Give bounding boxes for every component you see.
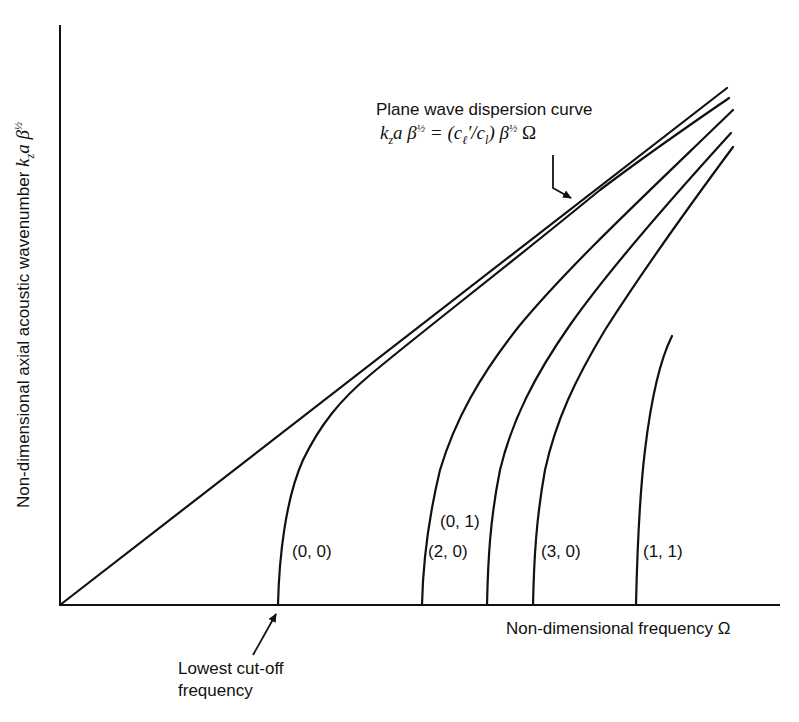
cutoff-label-line1: Lowest cut-off [178, 659, 284, 679]
mode-label-0-0: (0, 0) [292, 542, 332, 562]
mode-label-2-0: (2, 0) [428, 542, 468, 562]
mode-0-0-curve [278, 98, 729, 605]
plane-wave-title: Plane wave dispersion curve [376, 100, 592, 120]
y-axis-label-math: kza β½ [12, 122, 33, 167]
x-axis-label: Non-dimensional frequency Ω [506, 619, 730, 639]
cutoff-arrow [253, 614, 276, 655]
mode-1-1-curve [636, 336, 672, 605]
mode-0-1-curve [487, 133, 731, 605]
y-axis-label-text: Non-dimensional axial acoustic wavenumbe… [14, 172, 33, 508]
mode-label-0-1: (0, 1) [440, 512, 480, 532]
mode-label-3-0: (3, 0) [541, 542, 581, 562]
cutoff-label-line2: frequency [178, 681, 253, 701]
plane-wave-arrow [553, 155, 571, 198]
mode-label-1-1: (1, 1) [643, 542, 683, 562]
plane-wave-equation: kza β½ = (cℓ′/cl) β½ Ω [380, 122, 536, 148]
plane-wave-curve [60, 88, 727, 605]
y-axis-label: Non-dimensional axial acoustic wavenumbe… [12, 122, 38, 508]
